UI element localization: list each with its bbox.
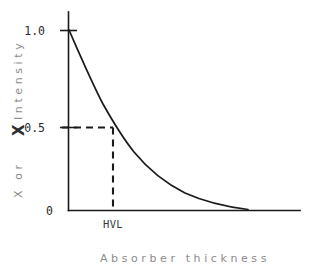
chart-canvas: 1.0 0.5 0 HVL Absorber thickness X or X … — [0, 0, 324, 275]
y-tick-label-3: 0 — [46, 204, 53, 218]
x-axis-title: Absorber thickness — [100, 252, 270, 265]
y-axis-title-suffix: Intensity — [12, 40, 25, 120]
attenuation-curve — [69, 30, 248, 210]
attenuation-chart-figure: 1.0 0.5 0 HVL Absorber thickness X or X … — [0, 0, 324, 275]
y-axis-title-group: X or X Intensity — [10, 40, 28, 198]
y-axis-title-prefix: X or — [12, 161, 25, 198]
y-tick-label-1: 1.0 — [24, 24, 45, 38]
y-axis-title-accent-glyph: X — [10, 122, 28, 136]
x-tick-label-hvl: HVL — [103, 218, 123, 230]
